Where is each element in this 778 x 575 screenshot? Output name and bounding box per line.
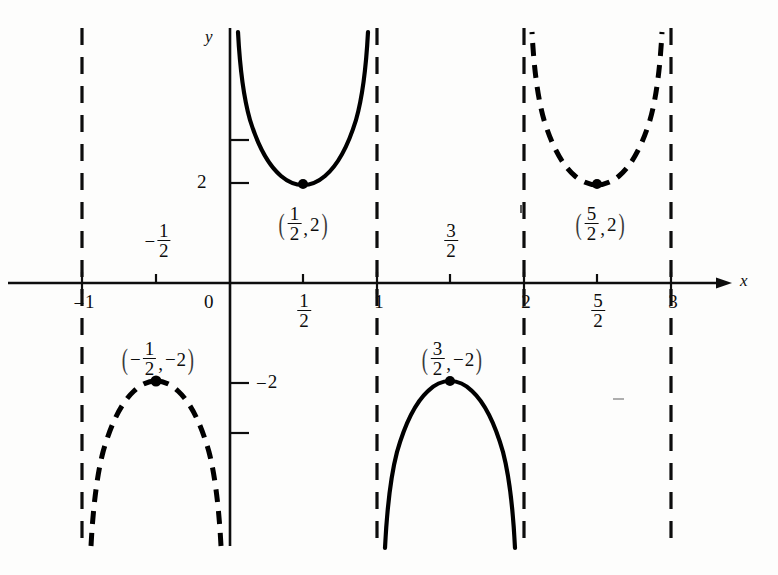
origin-label: 0 bbox=[204, 292, 214, 311]
comma: , bbox=[599, 219, 607, 238]
curve-branch-neghalf-down bbox=[91, 381, 221, 546]
fraction-numerator: 5 bbox=[591, 291, 605, 310]
minus-sign-x: − bbox=[130, 350, 142, 369]
minus-sign-y: − bbox=[165, 350, 177, 369]
x-tick-label-neg-half: − 1 2 bbox=[144, 222, 171, 262]
x-axis-arrow bbox=[716, 278, 732, 289]
fraction-one-half: 1 2 bbox=[297, 291, 311, 331]
right-paren: ) bbox=[476, 344, 482, 374]
fraction-denominator: 2 bbox=[585, 223, 599, 243]
left-paren: ( bbox=[122, 344, 128, 374]
curve-path-solid-down-right bbox=[450, 381, 515, 548]
fraction-denominator: 2 bbox=[157, 240, 171, 260]
dot-half-2 bbox=[298, 179, 308, 189]
dot-fivehalf-2 bbox=[592, 179, 602, 189]
point-label-fivehalf-2: ( 5 2 ,2) bbox=[574, 205, 627, 245]
fraction-numerator: 1 bbox=[143, 339, 157, 358]
left-paren: ( bbox=[279, 209, 285, 239]
fraction-one-half-neg: 1 2 bbox=[157, 221, 171, 261]
x-tick-text-neg1: 1 bbox=[85, 291, 95, 312]
curve-path-solid-up-right bbox=[303, 32, 368, 185]
fraction-numerator: 3 bbox=[431, 339, 445, 358]
y-tick-label-2: 2 bbox=[197, 172, 207, 191]
fraction-numerator: 1 bbox=[288, 204, 302, 223]
point-y-value: 2 bbox=[607, 215, 617, 234]
point-label-half-2: ( 1 2 ,2) bbox=[277, 205, 330, 245]
graph-svg bbox=[0, 0, 778, 575]
right-paren: ) bbox=[321, 209, 327, 239]
curve-branch-threehalf-down bbox=[385, 381, 515, 548]
x-tick-label-half: 1 2 bbox=[296, 292, 312, 332]
fraction-denominator: 2 bbox=[444, 240, 458, 260]
figure-canvas: y x 0 −-11 1 2 3 − 1 2 1 2 3 2 5 2 2 bbox=[0, 0, 778, 575]
curve-path-dashed-up-left bbox=[532, 32, 597, 185]
curve-path-dashed-down-right bbox=[156, 381, 221, 546]
x-tick-label-three-half: 3 2 bbox=[443, 222, 459, 262]
curve-path-solid-up-left bbox=[238, 32, 303, 185]
x-axis-label: x bbox=[740, 272, 748, 289]
point-y-value: 2 bbox=[465, 350, 475, 369]
comma: , bbox=[302, 219, 310, 238]
x-tick-label-neg1: −-11 bbox=[73, 292, 94, 313]
comma: , bbox=[157, 354, 165, 373]
y-tick-label-neg2: −2 bbox=[256, 372, 277, 393]
x-tick-label-1: 1 bbox=[374, 292, 384, 311]
x-tick-label-2: 2 bbox=[521, 292, 531, 311]
curve-path-solid-down-left bbox=[385, 381, 450, 548]
fraction-denominator: 2 bbox=[297, 310, 311, 330]
minus-sign-neg1: − bbox=[73, 294, 85, 313]
fraction-denominator: 2 bbox=[591, 310, 605, 330]
minus-sign-y: − bbox=[453, 350, 465, 369]
y-tick-text-neg2: 2 bbox=[268, 371, 278, 392]
comma: , bbox=[445, 354, 453, 373]
y-axis-label: y bbox=[205, 28, 213, 45]
fraction-one-half-point: 1 2 bbox=[143, 339, 157, 379]
x-axis-group bbox=[8, 278, 732, 289]
curve-path-dashed-up-right bbox=[597, 32, 662, 185]
fraction-three-halves: 3 2 bbox=[444, 221, 458, 261]
x-tick-text-2: 2 bbox=[521, 291, 531, 312]
point-label-neghalf-neg2: (− 1 2 ,−2) bbox=[120, 340, 196, 380]
fraction-three-halves-point: 3 2 bbox=[431, 339, 445, 379]
point-y-value: 2 bbox=[310, 215, 320, 234]
fraction-one-half-point: 1 2 bbox=[288, 204, 302, 244]
fraction-numerator: 1 bbox=[157, 221, 171, 240]
curve-branch-fivehalf-up bbox=[532, 32, 662, 185]
fraction-numerator: 5 bbox=[585, 204, 599, 223]
right-paren: ) bbox=[618, 209, 624, 239]
minus-sign-y-neg2: − bbox=[256, 374, 268, 393]
left-paren: ( bbox=[576, 209, 582, 239]
curve-branch-half-up bbox=[238, 32, 368, 185]
point-y-value: 2 bbox=[177, 350, 187, 369]
minus-sign-neghalf: − bbox=[144, 232, 156, 251]
curve-path-dashed-down-left bbox=[91, 381, 156, 546]
x-tick-label-five-half: 5 2 bbox=[590, 292, 606, 332]
right-paren: ) bbox=[188, 344, 194, 374]
x-tick-text-1: 1 bbox=[374, 291, 384, 312]
y-tick-marks bbox=[230, 140, 249, 433]
fraction-five-halves: 5 2 bbox=[591, 291, 605, 331]
x-tick-label-3: 3 bbox=[668, 292, 678, 311]
fraction-numerator: 1 bbox=[297, 291, 311, 310]
fraction-denominator: 2 bbox=[288, 223, 302, 243]
fraction-denominator: 2 bbox=[143, 358, 157, 378]
x-tick-text-3: 3 bbox=[668, 291, 678, 312]
left-paren: ( bbox=[422, 344, 428, 374]
fraction-denominator: 2 bbox=[431, 358, 445, 378]
fraction-five-halves-point: 5 2 bbox=[585, 204, 599, 244]
point-label-threehalf-neg2: ( 3 2 ,−2) bbox=[420, 340, 484, 380]
fraction-numerator: 3 bbox=[444, 221, 458, 240]
